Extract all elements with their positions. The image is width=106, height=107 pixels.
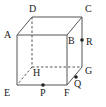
point-marker-r bbox=[80, 38, 84, 42]
vertex-label-d: D bbox=[29, 4, 36, 14]
vertex-label-c: C bbox=[85, 4, 92, 14]
point-label-p: P bbox=[40, 88, 46, 98]
cube-diagram bbox=[0, 0, 106, 107]
point-label-q: Q bbox=[74, 79, 81, 89]
vertex-label-b: B bbox=[68, 36, 75, 46]
vertex-label-g: G bbox=[85, 66, 92, 76]
point-label-r: R bbox=[86, 37, 93, 47]
vertex-label-h: H bbox=[33, 68, 40, 78]
geometry-figure: ABCDEFGHPQR bbox=[0, 0, 106, 107]
vertex-label-a: A bbox=[4, 30, 11, 40]
edge-HE bbox=[17, 67, 32, 85]
edge-AD bbox=[17, 17, 32, 35]
edge-BC bbox=[67, 17, 82, 35]
vertex-label-e: E bbox=[4, 88, 10, 98]
vertex-label-f: F bbox=[64, 88, 70, 98]
